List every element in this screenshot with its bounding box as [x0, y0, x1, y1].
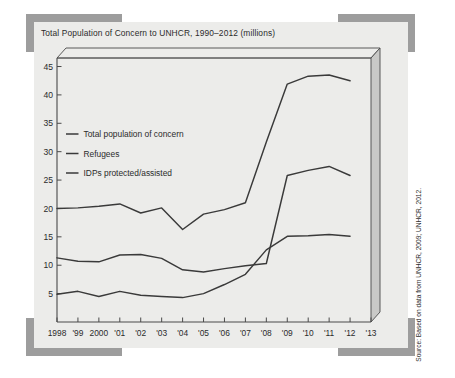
svg-text:15: 15 — [43, 232, 53, 242]
svg-text:'09: '09 — [282, 328, 293, 338]
svg-text:'13: '13 — [366, 328, 377, 338]
svg-text:'99: '99 — [72, 328, 83, 338]
svg-text:25: 25 — [43, 175, 53, 185]
svg-text:'04: '04 — [177, 328, 188, 338]
svg-text:'01: '01 — [114, 328, 125, 338]
svg-text:'05: '05 — [198, 328, 209, 338]
chart-card: Total Population of Concern to UNHCR, 19… — [34, 22, 408, 348]
legend-label: Refugees — [84, 149, 120, 159]
svg-text:'06: '06 — [219, 328, 230, 338]
legend-label: IDPs protected/assisted — [84, 168, 173, 178]
line-chart-plot: 510152025303540451998'992000'01'02'03'04… — [34, 22, 408, 348]
svg-text:'03: '03 — [156, 328, 167, 338]
legend-label: Total population of concern — [84, 129, 184, 139]
svg-text:2000: 2000 — [90, 328, 109, 338]
svg-text:'10: '10 — [303, 328, 314, 338]
svg-text:30: 30 — [43, 147, 53, 157]
svg-text:10: 10 — [43, 260, 53, 270]
svg-text:45: 45 — [43, 62, 53, 72]
svg-text:'08: '08 — [261, 328, 272, 338]
svg-text:35: 35 — [43, 118, 53, 128]
series-line — [57, 166, 350, 272]
series-line — [57, 235, 350, 298]
svg-text:'07: '07 — [240, 328, 251, 338]
svg-text:'12: '12 — [345, 328, 356, 338]
svg-text:'02: '02 — [135, 328, 146, 338]
svg-text:40: 40 — [43, 90, 53, 100]
source-note: Source: Based on data from UNHCR, 2009; … — [415, 188, 422, 362]
svg-text:20: 20 — [43, 204, 53, 214]
svg-text:'11: '11 — [324, 328, 335, 338]
svg-text:1998: 1998 — [48, 328, 67, 338]
svg-text:5: 5 — [48, 289, 53, 299]
